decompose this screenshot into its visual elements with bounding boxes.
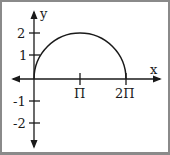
y-tick-label-2: 2 bbox=[17, 26, 25, 41]
y-tick-label-neg1: -1 bbox=[13, 94, 26, 109]
curve-line bbox=[34, 33, 126, 79]
y-tick-label-neg2: -2 bbox=[13, 116, 26, 131]
x-tick-label-2pi: 2Π bbox=[115, 86, 135, 101]
y-axis-label: y bbox=[39, 6, 48, 21]
y-tick-label-1: 1 bbox=[19, 48, 27, 63]
x-tick-label-pi: Π bbox=[74, 86, 85, 101]
x-axis-label: x bbox=[150, 62, 158, 77]
chart-plot: y x 2 1 -1 -2 Π 2Π bbox=[0, 0, 170, 155]
